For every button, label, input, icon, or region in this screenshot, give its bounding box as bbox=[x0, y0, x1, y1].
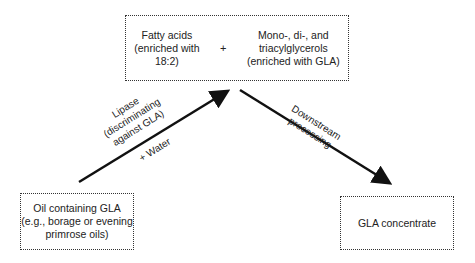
glycerols-text: Mono-, di-, and triacylglycerols (enrich… bbox=[247, 29, 340, 68]
products-box: Fatty acids (enriched with 18:2) + Mono-… bbox=[125, 15, 349, 81]
line: Fatty acids bbox=[134, 29, 199, 42]
line: (enriched with GLA) bbox=[247, 55, 340, 68]
gla-concentrate-box: GLA concentrate bbox=[340, 196, 454, 250]
line: (enriched with bbox=[134, 42, 199, 55]
line: GLA concentrate bbox=[358, 217, 436, 230]
line: (e.g., borage or evening bbox=[21, 215, 133, 228]
line: Oil containing GLA bbox=[21, 202, 133, 215]
plus-sign: + bbox=[216, 42, 230, 55]
line: triacylglycerols bbox=[247, 42, 340, 55]
line: primrose oils) bbox=[21, 228, 133, 241]
oil-source-box: Oil containing GLA (e.g., borage or even… bbox=[20, 193, 134, 250]
line: 18:2) bbox=[134, 55, 199, 68]
line: Mono-, di-, and bbox=[247, 29, 340, 42]
fatty-acids-text: Fatty acids (enriched with 18:2) bbox=[134, 29, 199, 68]
